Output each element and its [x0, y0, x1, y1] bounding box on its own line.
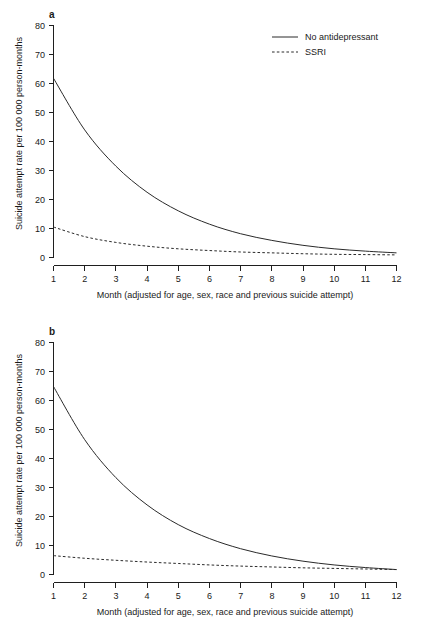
panel-b-x-tick-3: 3: [113, 591, 118, 601]
legend-label-no-antidepressant: No antidepressant: [305, 32, 379, 42]
panel-a-x-tick-4: 4: [145, 274, 150, 284]
panel-a-x-tick-10: 10: [329, 274, 339, 284]
panel-a-curve-no-antidepressant: [54, 78, 397, 253]
panel-b-y-axis: 0 10 20 30 40 50 60 70 80: [35, 338, 54, 580]
panel-b-x-tick-6: 6: [207, 591, 212, 601]
panel-b-x-tick-5: 5: [176, 591, 181, 601]
panel-b-x-tick-12: 12: [391, 591, 401, 601]
panel-a-y-tick-40: 40: [35, 137, 45, 147]
panel-b-letter: b: [49, 326, 55, 337]
panel-a-x-tick-9: 9: [301, 274, 306, 284]
panel-b-plot: b Suicide attempt rate per 100 000 perso…: [0, 317, 424, 633]
panel-b-x-tick-9: 9: [301, 591, 306, 601]
panel-b-y-tick-30: 30: [35, 483, 45, 493]
panel-b-x-tick-2: 2: [82, 591, 87, 601]
panel-a-series: [54, 78, 397, 255]
panel-b: b Suicide attempt rate per 100 000 perso…: [0, 317, 424, 633]
panel-b-x-tick-11: 11: [361, 591, 370, 601]
panel-a-x-tick-5: 5: [176, 274, 181, 284]
panel-a-y-tick-0: 0: [40, 253, 45, 263]
panel-a-x-tick-12: 12: [391, 274, 401, 284]
panel-b-y-tick-80: 80: [35, 338, 45, 348]
panel-b-y-ticks: [49, 343, 54, 575]
panel-b-y-tick-0: 0: [40, 570, 45, 580]
panel-a-x-tick-2: 2: [82, 274, 87, 284]
panel-b-x-axis: 1 2 3 4 5 6 7 8 9 10 11 12: [51, 583, 402, 602]
panel-b-y-tick-10: 10: [35, 541, 45, 551]
panel-a-y-ticks: [49, 26, 54, 258]
panel-a-y-tick-30: 30: [35, 166, 45, 176]
panel-a-y-axis-title: Suicide attempt rate per 100 000 person-…: [14, 36, 24, 230]
panel-b-x-tick-8: 8: [269, 591, 274, 601]
panel-b-x-tick-10: 10: [329, 591, 339, 601]
panel-a-legend: No antidepressant SSRI: [272, 32, 379, 57]
panel-b-x-axis-title: Month (adjusted for age, sex, race and p…: [97, 607, 354, 617]
panel-a-x-tick-8: 8: [269, 274, 274, 284]
legend-label-ssri: SSRI: [305, 47, 326, 57]
panel-a-y-tick-60: 60: [35, 79, 45, 89]
panel-a: a Suicide attempt rate per 100 000 perso…: [0, 0, 424, 316]
panel-b-y-axis-title: Suicide attempt rate per 100 000 person-…: [14, 353, 24, 547]
panel-b-y-tick-60: 60: [35, 396, 45, 406]
panel-a-x-tick-7: 7: [238, 274, 243, 284]
panel-a-y-tick-70: 70: [35, 50, 45, 60]
panel-a-plot: a Suicide attempt rate per 100 000 perso…: [0, 0, 424, 316]
panel-a-x-tick-6: 6: [207, 274, 212, 284]
panel-a-y-tick-80: 80: [35, 21, 45, 31]
figure-suicide-attempt-rate: a Suicide attempt rate per 100 000 perso…: [0, 0, 424, 633]
panel-a-x-ticks: [54, 266, 397, 271]
panel-a-x-tick-1: 1: [51, 274, 56, 284]
panel-b-series: [54, 387, 397, 570]
panel-a-x-tick-11: 11: [361, 274, 370, 284]
panel-b-y-tick-50: 50: [35, 425, 45, 435]
panel-a-y-tick-20: 20: [35, 195, 45, 205]
panel-a-curve-ssri: [54, 227, 397, 255]
panel-b-curve-ssri: [54, 556, 397, 570]
panel-a-x-axis-title: Month (adjusted for age, sex, race and p…: [97, 290, 354, 300]
panel-b-x-ticks: [54, 583, 397, 588]
panel-a-x-tick-3: 3: [113, 274, 118, 284]
panel-b-curve-no-antidepressant: [54, 387, 397, 570]
panel-b-x-tick-4: 4: [145, 591, 150, 601]
panel-a-y-tick-50: 50: [35, 108, 45, 118]
panel-a-y-tick-10: 10: [35, 224, 45, 234]
panel-b-y-tick-40: 40: [35, 454, 45, 464]
panel-a-letter: a: [49, 9, 55, 20]
panel-b-y-tick-20: 20: [35, 512, 45, 522]
panel-a-x-axis: 1 2 3 4 5 6 7 8 9 10 11 12: [51, 266, 402, 285]
panel-b-x-tick-1: 1: [51, 591, 56, 601]
panel-b-y-tick-70: 70: [35, 367, 45, 377]
panel-a-y-axis: 0 10 20 30 40 50 60 70 80: [35, 21, 54, 263]
panel-b-x-tick-7: 7: [238, 591, 243, 601]
